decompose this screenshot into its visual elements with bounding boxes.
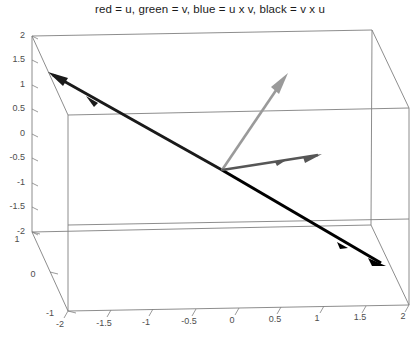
box-edge-top-left-depth: [32, 36, 68, 115]
vector-u-cross-v-arrowhead: [48, 72, 68, 86]
z-axis-ticks: [32, 36, 38, 235]
x-tick-neg1: [149, 309, 153, 316]
box-edge-front-bottom: [68, 305, 409, 311]
z-tick-label: -1: [17, 177, 25, 187]
y-tick-label: 0: [30, 269, 35, 279]
x-tick-2: [405, 305, 409, 312]
x-tick-label: 0.5: [269, 314, 282, 324]
z-tick-labels: 2 1.5 1 0.5 0 -0.5 -1 -1.5 -2: [9, 30, 25, 236]
z-tick-label: -1.5: [9, 201, 25, 211]
box-edge-mid-lower-horizontal: [68, 219, 409, 225]
x-tick-labels: -2 -1.5 -1 -0.5 0 0.5 1 1.5 2: [56, 311, 406, 329]
vector-v-shaft: [222, 80, 283, 170]
z-tick-0: [32, 134, 38, 137]
z-tick-0p5: [32, 109, 38, 112]
box-edge-back-top: [32, 30, 372, 36]
x-tick-label: 1: [314, 313, 319, 323]
x-tick-neg0p5: [192, 309, 196, 316]
y-tick-label: 1: [14, 234, 19, 244]
x-tick-1: [320, 306, 324, 313]
box-edge-back-right-vertical: [371, 30, 372, 225]
x-tick-label: -1.5: [96, 318, 112, 328]
x-tick-label: 2: [400, 311, 405, 321]
x-tick-0p5: [277, 307, 281, 314]
z-tick-label: 2: [20, 30, 25, 40]
vector-u: [222, 154, 322, 170]
z-tick-label: 1.5: [12, 54, 25, 64]
vector-v-arrowhead: [271, 73, 288, 94]
x-tick-label: -1: [142, 317, 150, 327]
x-tick-label: -2: [56, 319, 64, 329]
figure-window: red = u, green = v, blue = u x v, black …: [0, 0, 420, 339]
vector-v-cross-u: [222, 170, 386, 266]
y-tick-label: -1: [46, 308, 54, 318]
vector-u-cross-v: [48, 72, 222, 170]
x-tick-label: 0: [229, 315, 234, 325]
z-tick-neg0p5: [32, 158, 38, 161]
z-tick-1: [32, 85, 38, 88]
z-tick-neg1p5: [32, 207, 38, 210]
y-tick-labels: 1 0 -1: [14, 234, 54, 318]
x-tick-neg1p5: [107, 310, 111, 317]
z-tick-label: 0: [20, 128, 25, 138]
vector-v-cross-u-shaft: [222, 170, 381, 263]
x-tick-label: 1.5: [354, 312, 367, 322]
vector-v: [222, 73, 288, 170]
z-tick-1p5: [32, 60, 38, 63]
box-edge-top-right-depth: [372, 30, 409, 108]
z-tick-neg1: [32, 183, 38, 186]
x-tick-0: [235, 308, 239, 315]
x-tick-label: -0.5: [181, 316, 197, 326]
z-tick-label: 0.5: [12, 103, 25, 113]
box-edge-left-depth: [32, 232, 68, 311]
vector-u-cross-v-shaft: [53, 75, 222, 170]
plot-3d-canvas: 2 1.5 1 0.5 0 -0.5 -1 -1.5 -2 1 0 -1 -2 …: [0, 0, 420, 339]
y-axis-ticks: [32, 232, 76, 313]
z-tick-label: -0.5: [9, 152, 25, 162]
x-tick-neg2: [64, 311, 68, 318]
z-tick-label: 1: [20, 79, 25, 89]
